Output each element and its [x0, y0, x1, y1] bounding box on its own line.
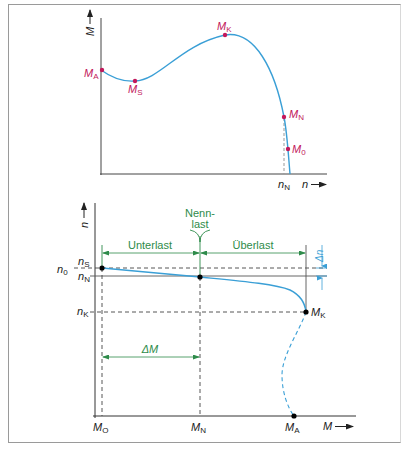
- tick-nN: nN: [78, 270, 90, 284]
- top-x-axis-label: n: [302, 178, 326, 190]
- delta-m-label: ΔM: [141, 343, 159, 355]
- nennlast-label-line2: last: [191, 218, 208, 230]
- label-MN: MN: [289, 108, 304, 122]
- torque-speed-curve: [101, 35, 290, 174]
- top-y-axis-label: M: [84, 10, 96, 36]
- tick-MA: MA: [285, 421, 300, 435]
- top-chart: M n nN MA MS MK MN M0: [84, 10, 327, 192]
- tick-MO: MO: [93, 421, 108, 435]
- label-MS: MS: [128, 83, 143, 97]
- point-MN-nN: [197, 274, 202, 279]
- tick-nS: nS: [78, 255, 89, 269]
- point-MN: [282, 115, 286, 119]
- svg-text:n: n: [302, 178, 308, 190]
- diagram-canvas: M n nN MA MS MK MN M0: [0, 0, 403, 454]
- label-MA: MA: [84, 67, 99, 81]
- top-tick-nN: nN: [278, 178, 290, 192]
- bottom-x-axis-label: M: [323, 420, 353, 432]
- tick-MN: MN: [191, 421, 206, 435]
- svg-text:M: M: [323, 420, 333, 432]
- bottom-chart: n M Nenn- last Unterlast Überlast ΔM: [57, 203, 356, 435]
- point-MK: [303, 309, 308, 314]
- point-MA: [291, 413, 296, 418]
- svg-text:M: M: [84, 26, 96, 36]
- label-MK-bottom: MK: [311, 306, 326, 320]
- ueberlast-label: Überlast: [233, 239, 274, 251]
- tick-nK: nK: [77, 305, 89, 319]
- label-M0: M0: [292, 143, 306, 157]
- svg-text:nN: nN: [278, 178, 290, 192]
- svg-text:n: n: [78, 222, 90, 228]
- unterlast-label: Unterlast: [128, 239, 172, 251]
- delta-n-indicator: Δn: [314, 245, 327, 290]
- point-M0: [286, 147, 290, 151]
- label-MK: MK: [217, 20, 232, 34]
- point-n0: [99, 265, 104, 270]
- speed-torque-curve-stable: [102, 268, 306, 312]
- point-MA: [100, 68, 104, 72]
- speed-torque-curve-unstable: [282, 312, 306, 416]
- tick-n0: n0: [57, 263, 68, 277]
- bottom-y-axis-label: n: [78, 203, 90, 228]
- delta-n-label: Δn: [314, 249, 325, 263]
